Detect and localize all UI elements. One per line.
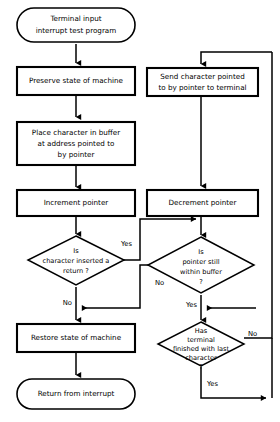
edge-label-terminal-finished-yes: Yes bbox=[206, 380, 218, 388]
edge-label-within-buffer-no: No bbox=[155, 279, 164, 287]
node-restore-state-label: Restore state of machine bbox=[31, 333, 122, 342]
node-is-return-line2: character inserted a bbox=[43, 257, 110, 265]
node-place-character-line1: Place character in buffer bbox=[32, 128, 120, 137]
node-within-buffer-line4: ? bbox=[199, 278, 203, 286]
node-within-buffer-line3: within buffer bbox=[180, 268, 222, 276]
node-terminal-finished-line5: ? bbox=[199, 363, 203, 371]
node-place-character-line3: by pointer bbox=[58, 150, 95, 159]
node-preserve-state-label: Preserve state of machine bbox=[29, 76, 124, 85]
node-within-buffer-line2: pointer still bbox=[182, 258, 219, 266]
node-increment-pointer-label: Increment pointer bbox=[44, 198, 109, 207]
connector-loop-top-to-sendchar bbox=[201, 52, 272, 64]
node-decrement-pointer-label: Decrement pointer bbox=[169, 198, 237, 207]
node-terminal-finished-line4: character bbox=[185, 354, 217, 362]
node-place-character-line2: at address pointed to bbox=[38, 139, 115, 148]
node-terminal-finished-line1: Has bbox=[195, 327, 208, 335]
flowchart-canvas: Terminal input interrupt test program Pr… bbox=[0, 0, 280, 422]
edge-label-is-return-no: No bbox=[63, 299, 72, 307]
node-return-from-interrupt-label: Return from interrupt bbox=[38, 389, 115, 398]
node-send-character-line2: to by pointer to terminal bbox=[158, 83, 246, 92]
node-send-character-line1: Send character pointed bbox=[160, 72, 244, 81]
node-start-line2: interrupt test program bbox=[36, 26, 117, 35]
node-within-buffer-line1: Is bbox=[198, 248, 204, 256]
node-terminal-finished-line2: terminal bbox=[187, 336, 215, 344]
node-is-return-line3: return ? bbox=[63, 267, 89, 275]
node-terminal-finished-line3: finished with last bbox=[173, 345, 230, 353]
edge-label-is-return-yes: Yes bbox=[120, 240, 132, 248]
edge-label-terminal-finished-no: No bbox=[248, 330, 257, 338]
flowchart-diagram: Terminal input interrupt test program Pr… bbox=[0, 0, 280, 422]
node-is-return-line1: Is bbox=[73, 247, 79, 255]
node-start-line1: Terminal input bbox=[49, 14, 101, 23]
edge-label-within-buffer-yes: Yes bbox=[185, 301, 197, 309]
